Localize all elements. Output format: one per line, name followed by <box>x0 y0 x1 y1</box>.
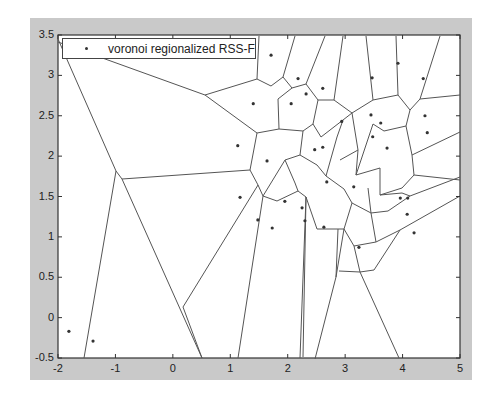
x-tick-label: -1 <box>105 362 125 374</box>
data-point <box>252 102 255 105</box>
x-tick-label: 1 <box>220 362 240 374</box>
data-point <box>412 231 415 234</box>
voronoi-plot <box>0 0 492 401</box>
data-point <box>369 113 372 116</box>
data-point <box>271 226 274 229</box>
data-point <box>238 196 241 199</box>
y-tick-label: 1 <box>30 230 54 242</box>
data-point <box>300 206 303 209</box>
data-point <box>422 77 425 80</box>
data-point <box>256 218 259 221</box>
y-tick-label: 2 <box>30 149 54 161</box>
x-tick-label: 4 <box>393 362 413 374</box>
x-tick-label: -2 <box>48 362 68 374</box>
y-tick-label: -0.5 <box>30 351 54 363</box>
data-point <box>91 339 94 342</box>
y-tick-label: 2.5 <box>30 109 54 121</box>
data-point <box>236 144 239 147</box>
data-point <box>371 76 374 79</box>
data-point <box>321 146 324 149</box>
data-point <box>313 148 316 151</box>
x-tick-label: 3 <box>335 362 355 374</box>
data-point <box>322 226 325 229</box>
data-point <box>283 200 286 203</box>
data-point <box>265 159 268 162</box>
y-tick-label: 0 <box>30 311 54 323</box>
legend-label: voronoi regionalized RSS-F <box>108 42 255 56</box>
data-point <box>379 121 382 124</box>
data-point <box>406 213 409 216</box>
data-point <box>396 62 399 65</box>
data-point <box>423 114 426 117</box>
data-point <box>303 219 306 222</box>
x-tick-label: 0 <box>163 362 183 374</box>
y-tick-label: 3 <box>30 68 54 80</box>
data-point <box>269 54 272 57</box>
x-tick-label: 5 <box>450 362 470 374</box>
data-point <box>304 92 307 95</box>
data-point <box>67 330 70 333</box>
data-point <box>352 185 355 188</box>
data-point <box>385 146 388 149</box>
axes-frame <box>58 35 460 358</box>
data-point <box>406 197 409 200</box>
data-point <box>321 87 324 90</box>
data-point <box>357 246 360 249</box>
x-tick-label: 2 <box>278 362 298 374</box>
data-point <box>290 102 293 105</box>
y-tick-label: 3.5 <box>30 28 54 40</box>
data-point <box>371 135 374 138</box>
y-tick-label: 0.5 <box>30 270 54 282</box>
data-point <box>340 120 343 123</box>
legend-marker-dot-icon <box>85 47 88 50</box>
y-tick-label: 1.5 <box>30 190 54 202</box>
legend: voronoi regionalized RSS-F <box>62 38 256 59</box>
data-point <box>296 77 299 80</box>
data-point <box>426 131 429 134</box>
data-point <box>325 180 328 183</box>
data-point <box>399 197 402 200</box>
